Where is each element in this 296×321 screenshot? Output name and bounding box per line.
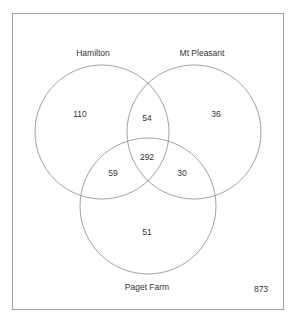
mt-pleasant-only-count: 36 [211,109,221,119]
hamilton-label: Hamilton [76,48,110,58]
hamilton-paget-farm-count: 59 [108,168,118,178]
hamilton-mt-pleasant-count: 54 [142,113,152,123]
outside-count: 873 [254,284,268,294]
hamilton-circle [35,65,169,199]
all-three-count: 292 [140,152,154,162]
paget-farm-only-count: 51 [142,227,152,237]
mt-pleasant-paget-farm-count: 30 [177,168,187,178]
mt-pleasant-circle [127,65,261,199]
paget-farm-label: Paget Farm [125,282,169,292]
venn-diagram: Hamilton Mt Pleasant Paget Farm 110 54 3… [0,0,296,321]
hamilton-only-count: 110 [73,109,87,119]
mt-pleasant-label: Mt Pleasant [180,48,226,58]
